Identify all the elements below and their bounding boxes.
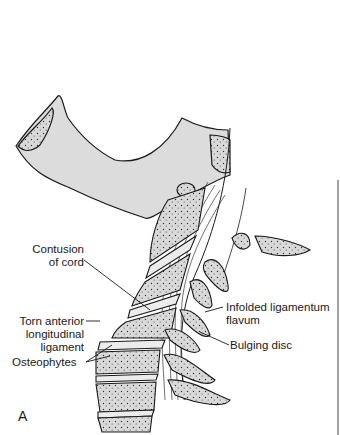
label-line: of cord [18,256,84,269]
label-line: ligament [4,341,84,354]
label-torn-anterior-longitudinal-ligament: Torn anterior longitudinal ligament [4,315,84,354]
label-line: Infolded ligamentum [226,301,330,314]
label-line: Torn anterior [4,315,84,328]
cervical-spine-illustration [0,0,340,435]
label-line: Contusion [18,243,84,256]
label-contusion-of-cord: Contusion of cord [18,243,84,269]
label-osteophytes: Osteophytes [12,356,77,369]
label-line: longitudinal [4,328,84,341]
label-infolded-ligamentum-flavum: Infolded ligamentum flavum [226,301,330,327]
label-line: flavum [226,314,330,327]
panel-letter: A [18,408,27,424]
label-bulging-disc: Bulging disc [230,339,292,352]
